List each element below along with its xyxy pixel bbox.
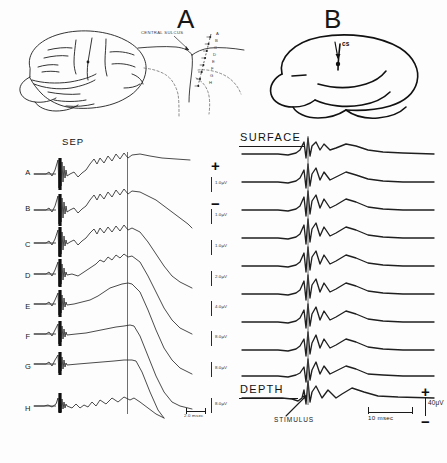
calbar-b <box>211 209 212 224</box>
panel-b-time-label: 10 msec <box>368 414 393 421</box>
panel-a-time-label: 2.0 msec <box>184 413 203 418</box>
cal-label-c: 1.0μV <box>215 243 227 248</box>
calbar-h <box>211 398 212 413</box>
calbar-a <box>211 177 212 192</box>
panel-a-time-bar <box>186 411 206 412</box>
figure-root: A B <box>0 0 447 463</box>
panel-b-stimulus-label: STIMULUS <box>274 416 314 423</box>
panel-a-time-tick-right <box>205 408 206 414</box>
electrode-letter-g: G <box>210 73 214 78</box>
electrode-letter-c: C <box>214 45 217 50</box>
panel-a-traces <box>30 150 195 418</box>
electrode-letter-e: E <box>212 59 215 64</box>
panel-a-polarity-negative: − <box>211 196 220 211</box>
cal-label-g: 8.0μV <box>215 365 227 370</box>
panel-b-traces <box>238 140 438 405</box>
cal-label-e: 4.0μV <box>215 304 227 309</box>
electrode-letter-h: H <box>209 80 212 85</box>
panel-a-polarity-positive: + <box>211 158 220 173</box>
cs-site-label: cs <box>342 40 350 47</box>
panel-b-polarity-positive: + <box>421 384 430 399</box>
cal-label-h: 8.0μV <box>215 401 227 406</box>
panel-b-time-tick-right <box>412 407 413 414</box>
panel-b-amplitude-label: 40μV <box>428 399 444 406</box>
cal-label-b: 1.0μV <box>215 212 227 217</box>
panel-a-cross-section <box>136 28 246 116</box>
sep-title: SEP <box>62 136 84 147</box>
stimulus-arrow <box>280 392 320 418</box>
recording-site-dot <box>336 62 340 66</box>
calbar-g <box>211 362 212 377</box>
calbar-f <box>211 331 212 346</box>
electrode-letter-b: B <box>215 38 218 43</box>
cal-label-f: 8.0μV <box>215 334 227 339</box>
central-sulcus-label: CENTRAL SULCUS <box>141 30 183 35</box>
panel-a-brain-illustration <box>8 22 153 117</box>
electrode-letter-f: F <box>211 66 214 71</box>
electrode-letter-d: D <box>213 52 216 57</box>
electrode-letter-a: A <box>216 31 219 36</box>
calbar-c <box>211 240 212 255</box>
panel-b-polarity-negative: − <box>421 414 430 429</box>
cal-label-d: 2.0μV <box>215 274 227 279</box>
cal-label-a: 1.0μV <box>215 180 227 185</box>
calbar-d <box>211 271 212 286</box>
panel-b-time-tick-left <box>368 407 369 414</box>
calbar-e <box>211 301 212 316</box>
panel-b-amplitude-bar <box>425 398 426 416</box>
